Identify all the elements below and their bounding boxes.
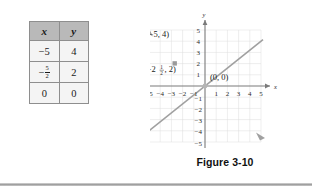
x-tick-label: −3	[168, 90, 176, 98]
table-cell-x: 0	[30, 83, 60, 104]
table-header-y: y	[59, 22, 89, 41]
y-tick-label: −2	[195, 106, 203, 114]
axes	[150, 20, 270, 148]
x-tick-labels: −5 −4 −3 −2 −1 1 2 3 4 5	[150, 90, 263, 98]
point-label-close: , 2)	[165, 64, 177, 74]
x-tick-label: −4	[156, 90, 164, 98]
y-tick-label: −1	[195, 95, 203, 103]
point-marker-origin	[203, 84, 208, 89]
table-cell-y: 2	[59, 62, 89, 83]
x-tick-label: 4	[248, 90, 252, 98]
value-table: x y −5 4 −52 2 0 0	[29, 21, 89, 104]
point-label-minus-two-and-half-two: (−2 1 2 , 2)	[150, 64, 176, 76]
figure-caption: Figure 3-10	[150, 156, 300, 168]
footer-divider	[0, 183, 312, 186]
line-arrowhead-lower-right	[256, 133, 265, 141]
y-tick-labels: 5 4 3 2 1 −1 −2 −3 −4 −5	[195, 27, 203, 148]
x-tick-label: 5	[259, 90, 263, 98]
table-header-x: x	[30, 22, 60, 41]
table-header-row: x y	[30, 22, 89, 41]
table-row: −52 2	[30, 62, 89, 83]
point-label-frac-den: 2	[160, 70, 163, 76]
y-tick-label: −3	[195, 117, 203, 125]
x-tick-label: −5	[150, 90, 153, 98]
point-label-origin: (0, 0)	[210, 72, 229, 82]
point-label-open: (−2	[150, 64, 156, 74]
table-cell-x: −52	[30, 62, 60, 83]
table-cell-x: −5	[30, 41, 60, 62]
graph-figure: −5 −4 −3 −2 −1 1 2 3 4 5 5 4 3 2 1 −1 −2…	[150, 6, 300, 191]
y-tick-label: −5	[195, 140, 203, 148]
y-axis-arrowhead	[203, 20, 208, 25]
y-tick-label: 1	[197, 71, 201, 79]
x-tick-label: 1	[214, 90, 218, 98]
x-tick-label: 3	[237, 90, 241, 98]
table-row: 0 0	[30, 83, 89, 104]
x-tick-label: 2	[226, 90, 230, 98]
coordinate-plane: −5 −4 −3 −2 −1 1 2 3 4 5 5 4 3 2 1 −1 −2…	[150, 6, 300, 156]
fraction-five-halves: 52	[45, 65, 50, 80]
y-tick-label: 4	[197, 38, 201, 46]
x-axis-arrowhead	[265, 84, 270, 89]
y-tick-label: 2	[197, 60, 201, 68]
fraction-denominator: 2	[45, 73, 50, 80]
y-tick-label: 3	[197, 49, 201, 57]
table-row: −5 4	[30, 41, 89, 62]
table-cell-y: 4	[59, 41, 89, 62]
y-axis-label: y	[202, 11, 206, 18]
y-tick-label: −4	[195, 128, 203, 136]
x-axis-label: x	[273, 83, 277, 90]
table-cell-y: 0	[59, 83, 89, 104]
x-tick-label: −2	[179, 90, 187, 98]
point-label-minus-five-four: (−5, 4)	[150, 29, 169, 39]
y-tick-label: 5	[197, 27, 201, 35]
